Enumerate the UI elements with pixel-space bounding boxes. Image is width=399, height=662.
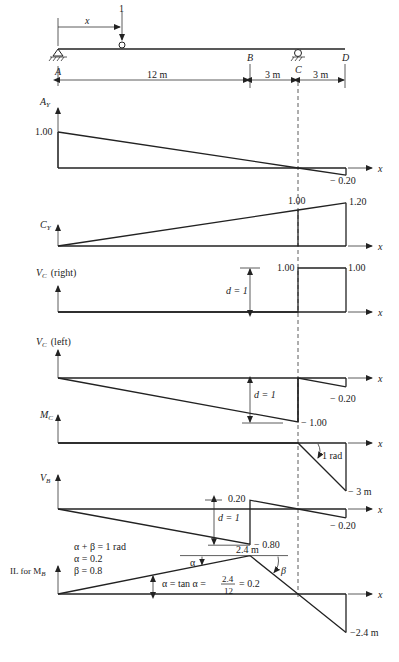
influence-line-figure: 1 x A B C D 12 bbox=[0, 0, 399, 662]
influence-line-mc bbox=[58, 443, 346, 491]
alpha-label: α bbox=[190, 557, 196, 568]
title-subscript: Y bbox=[47, 224, 52, 232]
x-axis-label: x bbox=[377, 307, 383, 318]
roller-support-icon bbox=[291, 50, 305, 62]
load-roller bbox=[119, 42, 125, 48]
title-subscript: B bbox=[46, 477, 51, 485]
point-label-c: C bbox=[295, 64, 302, 75]
title-subscript: C bbox=[42, 341, 47, 349]
span-label-bc: 3 m bbox=[265, 69, 281, 80]
diagram-title-ay: AY bbox=[39, 96, 51, 109]
value-label: − 0.20 bbox=[330, 175, 356, 186]
value-label: −2.4 m bbox=[350, 627, 379, 638]
diagram-title-cy: CY bbox=[40, 219, 52, 232]
value-label: − 0.20 bbox=[330, 520, 356, 531]
value-label: − 0.20 bbox=[330, 393, 356, 404]
title-suffix: (left) bbox=[51, 336, 71, 348]
diagram-il_mb: xIL for MB2.4 m−2.4 mα + β = 1 radα = 0.… bbox=[10, 541, 383, 638]
influence-line-cy bbox=[58, 203, 346, 246]
title-subscript: B bbox=[41, 570, 46, 578]
title-subscript: C bbox=[42, 272, 47, 280]
x-position-label: x bbox=[84, 15, 90, 26]
x-axis-label: x bbox=[377, 163, 383, 174]
x-axis-label: x bbox=[377, 438, 383, 449]
title-subscript: Y bbox=[46, 101, 51, 109]
value-label: 2.4 m bbox=[236, 544, 259, 555]
x-axis-label: x bbox=[377, 589, 383, 600]
x-axis-label: x bbox=[377, 373, 383, 384]
diagram-title-vc_left: VC(left) bbox=[36, 336, 71, 349]
value-label: 0.20 bbox=[228, 493, 246, 504]
value-label: 1.00 bbox=[288, 195, 306, 206]
influence-line-vc_left bbox=[58, 378, 346, 422]
diagram-vc_left: xVC(left)− 1.00− 0.20d = 1 bbox=[36, 336, 383, 428]
diagram-title-vc_right: VC(right) bbox=[36, 267, 76, 280]
d-annotation: d = 1 bbox=[226, 285, 248, 296]
formula-denominator: 12 bbox=[224, 586, 233, 596]
pin-support-icon bbox=[49, 49, 67, 61]
x-axis-label: x bbox=[377, 241, 383, 252]
beta-label: β bbox=[280, 565, 286, 576]
title-suffix: (right) bbox=[51, 267, 77, 279]
diagram-title-vb: VB bbox=[40, 472, 51, 485]
rotation-annotation: 1 rad bbox=[322, 450, 342, 461]
d-annotation: d = 1 bbox=[218, 512, 240, 523]
value-label: − 3 m bbox=[348, 486, 372, 497]
formula-lhs: α = tan α = bbox=[162, 578, 206, 589]
diagram-ay: xAY1.00− 0.20 bbox=[35, 96, 383, 186]
title-main: IL for M bbox=[10, 566, 41, 576]
value-label: 1.00 bbox=[277, 262, 295, 273]
influence-line-vc_right bbox=[58, 268, 346, 312]
d-annotation: d = 1 bbox=[254, 389, 276, 400]
formula-rhs: = 0.2 bbox=[239, 578, 260, 589]
formula-numerator: 2.4 bbox=[222, 574, 234, 584]
x-axis-label: x bbox=[377, 504, 383, 515]
influence-line-vb bbox=[58, 500, 346, 544]
point-label-d: D bbox=[341, 52, 350, 63]
diagram-title-mc: MC bbox=[39, 409, 53, 422]
diagram-title-il_mb: IL for MB bbox=[10, 566, 46, 578]
diagram-cy: xCY1.001.20 bbox=[40, 195, 383, 252]
diagram-vb: xVB0.20− 0.80− 0.20d = 1 bbox=[40, 472, 383, 550]
beta-arrow bbox=[274, 557, 279, 573]
value-label: − 1.00 bbox=[301, 417, 327, 428]
diagram-mc: xMC− 3 m1 rad bbox=[39, 409, 383, 497]
il-note: β = 0.8 bbox=[74, 565, 102, 576]
value-label: 1.00 bbox=[348, 262, 366, 273]
rotation-arrow bbox=[318, 444, 320, 458]
influence-line-ay bbox=[58, 132, 346, 175]
il-note: α + β = 1 rad bbox=[74, 541, 126, 552]
diagram-vc_right: xVC(right)1.001.00d = 1 bbox=[36, 262, 383, 318]
span-label-cd: 3 m bbox=[313, 69, 329, 80]
span-label-ab: 12 m bbox=[147, 69, 168, 80]
point-label-b: B bbox=[247, 52, 253, 63]
il-note: α = 0.2 bbox=[74, 553, 102, 564]
title-subscript: C bbox=[48, 414, 53, 422]
load-label: 1 bbox=[119, 3, 124, 14]
value-label: 1.20 bbox=[349, 196, 367, 207]
value-label: 1.00 bbox=[35, 126, 53, 137]
